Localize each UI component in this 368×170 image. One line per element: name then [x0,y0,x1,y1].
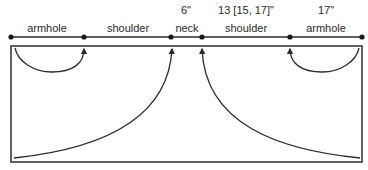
left-shoulder-arrow [14,49,172,158]
right-armhole-arrow [290,48,359,72]
segment-label-armhole-right: armhole [306,22,346,34]
segment-label-armhole-left: armhole [27,22,67,34]
right-shoulder-arrow [202,49,360,158]
segment-label-neck: neck [175,22,199,34]
dot-marker [359,34,364,39]
neck-measurement: 6" [181,4,191,16]
knitting-schematic: 6" 13 [15, 17]" 17" armhole shoulder nec… [0,0,368,170]
segment-label-shoulder-left: shoulder [107,22,150,34]
shoulder-measurement: 13 [15, 17]" [218,4,274,16]
dot-marker [81,34,86,39]
dot-marker [199,34,204,39]
left-armhole-arrow [15,48,84,72]
armhole-measurement: 17" [318,4,334,16]
segment-label-shoulder-right: shoulder [225,22,268,34]
dot-marker [168,34,173,39]
dot-marker [8,34,13,39]
body-rectangle [11,46,362,162]
dot-marker [287,34,292,39]
